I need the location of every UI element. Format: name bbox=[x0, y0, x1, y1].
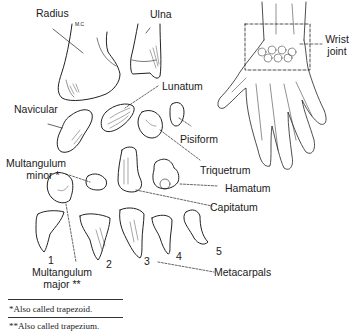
metacarpal-2-icon bbox=[80, 214, 110, 260]
label-multangulum-minor-line2: minor * bbox=[6, 169, 66, 181]
label-radius: Radius bbox=[36, 7, 69, 19]
label-multangulum-major: Multangulum major ** bbox=[32, 266, 92, 290]
footnote-rule-top bbox=[8, 299, 123, 300]
label-wrist-joint-line2: joint bbox=[322, 45, 352, 57]
label-multangulum-minor: Multangulum minor * bbox=[6, 157, 66, 181]
label-multangulum-minor-line1: Multangulum bbox=[6, 157, 66, 169]
label-capitatum: Capitatum bbox=[210, 201, 258, 213]
metacarpal-5-icon bbox=[184, 210, 208, 244]
footnote-1: *Also called trapezoid. bbox=[9, 304, 92, 314]
metacarpal-4-icon bbox=[152, 215, 172, 254]
metacarpal-3-icon bbox=[120, 208, 144, 258]
pisiform-bone-icon bbox=[170, 102, 184, 126]
metacarpal-number-1: 1 bbox=[48, 254, 54, 266]
label-triquetrum: Triquetrum bbox=[200, 164, 250, 176]
label-wrist-joint-line1: Wrist bbox=[322, 33, 352, 45]
label-pisiform: Pisiform bbox=[180, 133, 218, 145]
ulna-bone-icon bbox=[131, 24, 161, 78]
label-hamatum: Hamatum bbox=[225, 182, 271, 194]
triquetrum-bone-icon bbox=[138, 110, 162, 138]
metacarpal-number-2: 2 bbox=[106, 258, 112, 270]
label-ulna: Ulna bbox=[150, 8, 172, 20]
navicular-bone-icon bbox=[57, 110, 92, 153]
capitatum-bone-icon bbox=[118, 147, 142, 192]
label-wrist-joint: Wrist joint bbox=[322, 33, 352, 57]
footnote-rule-bottom bbox=[8, 317, 123, 318]
wrist-joint-box bbox=[245, 24, 310, 70]
lunatum-bone-icon bbox=[101, 104, 134, 132]
metacarpal-1-icon bbox=[36, 211, 64, 252]
label-multangulum-major-line1: Multangulum bbox=[32, 266, 92, 278]
label-lunatum: Lunatum bbox=[162, 80, 203, 92]
radius-bone-icon bbox=[58, 24, 120, 101]
label-navicular: Navicular bbox=[14, 103, 58, 115]
label-metacarpals: Metacarpals bbox=[214, 266, 271, 278]
footnote-2: **Also called trapezium. bbox=[9, 321, 99, 331]
metacarpal-number-4: 4 bbox=[176, 250, 182, 262]
label-multangulum-major-line2: major ** bbox=[32, 278, 92, 290]
hamatum-bone-icon bbox=[153, 159, 179, 189]
metacarpal-number-5: 5 bbox=[216, 245, 222, 257]
artist-initials: M.C bbox=[75, 18, 84, 30]
metacarpal-number-3: 3 bbox=[144, 255, 150, 267]
